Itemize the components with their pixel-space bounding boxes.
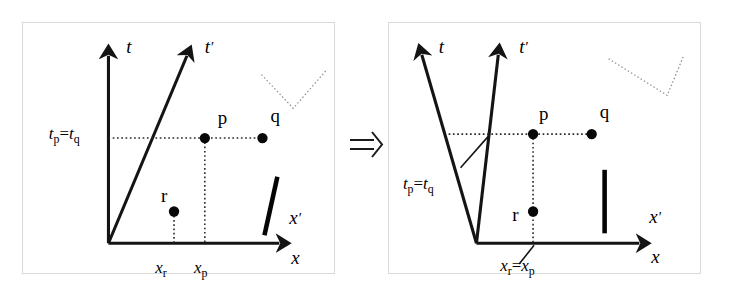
event-r-dot bbox=[169, 206, 179, 216]
x-r-equals-x-p-label: xr=xp bbox=[499, 256, 534, 278]
panel-primed-frame: t t′ x′ x tp=tq xr=xp p r q bbox=[388, 22, 701, 274]
primed-frame-diagram: t t′ x′ x tp=tq xr=xp p r q bbox=[389, 23, 700, 273]
x-prime-axis-label: x′ bbox=[648, 206, 661, 227]
figure-root: t t′ x′ x tp=tq xr xp p q r bbox=[0, 0, 730, 294]
dotted-v-marker bbox=[261, 71, 326, 109]
t-p-equals-t-q-label: tp=tq bbox=[49, 124, 80, 146]
x-axis-label: x bbox=[290, 247, 300, 268]
dotted-v-marker bbox=[609, 55, 685, 96]
event-r-label: r bbox=[161, 185, 168, 206]
t-axis-label: t bbox=[439, 36, 445, 57]
t-p-equals-t-q-label: tp=tq bbox=[403, 174, 434, 196]
x-p-label: xp bbox=[193, 258, 207, 280]
t-prime-axis-label: t′ bbox=[519, 36, 528, 57]
t-prime-axis-label: t′ bbox=[205, 36, 214, 57]
event-p-label: p bbox=[218, 107, 227, 128]
event-q-label: q bbox=[600, 101, 610, 122]
transform-arrow bbox=[348, 124, 388, 166]
event-p-dot bbox=[528, 129, 538, 139]
unprimed-frame-diagram: t t′ x′ x tp=tq xr xp p q r bbox=[23, 23, 334, 273]
event-p-dot bbox=[200, 133, 210, 143]
x-prime-axis-label: x′ bbox=[288, 207, 301, 228]
event-r-label: r bbox=[512, 204, 519, 225]
x-r-label: xr bbox=[154, 258, 166, 280]
event-r-dot bbox=[528, 206, 538, 216]
event-q-label: q bbox=[270, 105, 280, 126]
t-prime-axis-line bbox=[476, 55, 498, 243]
event-q-dot bbox=[257, 133, 267, 143]
event-p-label: p bbox=[539, 103, 548, 124]
panel-unprimed-frame: t t′ x′ x tp=tq xr xp p q r bbox=[22, 22, 335, 274]
event-q-dot bbox=[587, 129, 597, 139]
rod-tilted bbox=[264, 177, 277, 236]
t-axis-line bbox=[422, 55, 477, 243]
t-axis-label: t bbox=[126, 36, 132, 57]
implies-arrow-icon bbox=[348, 124, 388, 166]
x-axis-label: x bbox=[650, 246, 660, 267]
